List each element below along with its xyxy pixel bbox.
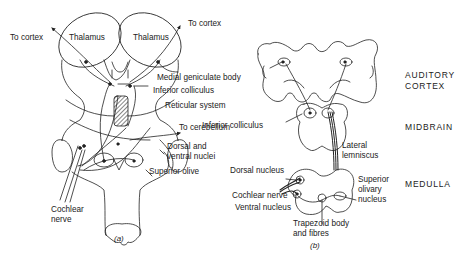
- label-cochlear-nerve-line2: nerve: [51, 215, 71, 224]
- lateral-lemniscus-bundle: [328, 112, 338, 170]
- figure-b-caption: (b): [310, 241, 320, 250]
- label-to-cortex-left: To cortex: [10, 33, 43, 42]
- label-to-cortex-right: To cortex: [188, 19, 221, 28]
- level-auditory-cortex-line2: CORTEX: [405, 81, 445, 92]
- reticular-system-shape: [114, 96, 128, 126]
- level-midbrain: MIDBRAIN: [405, 122, 453, 133]
- level-medulla: MEDULLA: [405, 179, 451, 190]
- label-thalamus-right: Thalamus: [133, 33, 169, 42]
- label-thalamus-left: Thalamus: [69, 33, 105, 42]
- label-reticular-system: Reticular system: [165, 101, 226, 110]
- label-superior-olivary-line3: nucleus: [358, 195, 386, 204]
- label-cochlear-nerve-b: Cochlear nerve: [232, 191, 288, 200]
- label-superior-olive: Superior olive: [149, 167, 199, 176]
- label-superior-olivary-line2: olivary: [358, 185, 382, 194]
- label-dorsal-ventral-nuclei-line1: Dorsal and: [167, 142, 207, 151]
- label-dorsal-ventral-nuclei-line2: ventral nuclei: [167, 152, 215, 161]
- auditory-cortex-shape: [258, 40, 378, 103]
- label-trapezoid-body-line2: and fibres: [293, 229, 329, 238]
- level-auditory-cortex-line1: AUDITORY: [405, 70, 455, 81]
- label-inferior-colliculus-b: Inferior colliculus: [202, 121, 263, 130]
- label-superior-olivary-line1: Superior: [358, 175, 389, 184]
- medulla-shape: [288, 169, 354, 214]
- figure-a-caption: (a): [114, 234, 124, 243]
- midbrain-shape: [297, 103, 348, 150]
- label-lateral-lemniscus-line2: lemniscus: [342, 151, 378, 160]
- label-medial-geniculate-body: Medial geniculate body: [157, 73, 241, 82]
- to-cerebellum-arrow: [130, 133, 180, 140]
- label-lateral-lemniscus-line1: Lateral: [342, 141, 367, 150]
- label-ventral-nucleus: Ventral nucleus: [235, 203, 291, 212]
- label-cochlear-nerve-line1: Cochlear: [51, 205, 84, 214]
- label-trapezoid-body-line1: Trapezoid body: [293, 219, 349, 228]
- label-dorsal-nucleus: Dorsal nucleus: [230, 166, 284, 175]
- label-inferior-colliculus-a: Inferior colliculus: [153, 86, 214, 95]
